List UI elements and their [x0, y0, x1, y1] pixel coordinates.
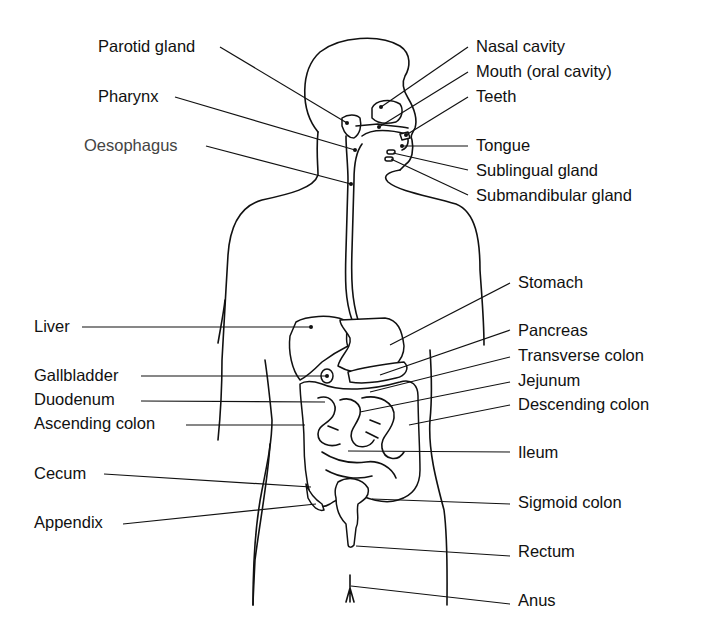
head-organs — [342, 101, 410, 320]
label-ascending-colon: Ascending colon — [34, 415, 155, 432]
sigmoid-rectum-shape — [335, 479, 368, 548]
label-tongue: Tongue — [476, 137, 530, 154]
label-transverse-colon: Transverse colon — [518, 347, 644, 364]
label-rectum: Rectum — [518, 543, 575, 560]
label-sigmoid-colon: Sigmoid colon — [518, 494, 622, 511]
label-jejunum: Jejunum — [518, 372, 580, 389]
label-submandibular-gland: Submandibular gland — [476, 187, 632, 204]
nasal-cavity-shape — [372, 101, 402, 124]
leader-appendix — [123, 504, 316, 524]
torso-right-outline — [430, 350, 447, 605]
label-liver: Liver — [34, 318, 70, 335]
label-pharynx: Pharynx — [98, 88, 159, 105]
label-parotid-gland: Parotid gland — [98, 38, 195, 55]
abdominal-organs — [289, 316, 420, 547]
leader-pharynx — [175, 97, 355, 150]
label-ileum: Ileum — [518, 444, 558, 461]
right-shoulder-outline — [386, 170, 484, 345]
label-duodenum: Duodenum — [34, 391, 115, 408]
left-hip-outline — [253, 444, 270, 605]
label-anus: Anus — [518, 592, 556, 609]
leader-duodenum — [141, 401, 325, 402]
label-stomach: Stomach — [518, 274, 583, 291]
label-nasal-cavity: Nasal cavity — [476, 38, 565, 55]
liver-shape — [289, 316, 348, 380]
leader-sublingual-gland — [393, 153, 468, 170]
leader-cecum — [104, 474, 311, 487]
label-sublingual-gland: Sublingual gland — [476, 162, 598, 179]
leader-parotid-gland — [220, 47, 347, 123]
label-cecum: Cecum — [34, 465, 86, 482]
label-oesophagus: Oesophagus — [84, 137, 178, 154]
oesophagus-tube — [352, 144, 362, 320]
label-gallbladder: Gallbladder — [34, 367, 118, 384]
label-mouth: Mouth (oral cavity) — [476, 63, 612, 80]
leader-anus — [351, 586, 510, 604]
leader-rectum — [356, 546, 510, 556]
pharynx-tube — [346, 136, 352, 320]
torso-left-outline — [253, 360, 272, 605]
anus-mark — [346, 575, 354, 602]
label-appendix: Appendix — [34, 514, 103, 531]
leader-descending-colon — [409, 405, 510, 425]
leader-nasal-cavity — [381, 47, 468, 107]
leader-oesophagus — [206, 146, 351, 184]
label-descending-colon: Descending colon — [518, 396, 649, 413]
label-pancreas: Pancreas — [518, 322, 588, 339]
label-teeth: Teeth — [476, 88, 516, 105]
